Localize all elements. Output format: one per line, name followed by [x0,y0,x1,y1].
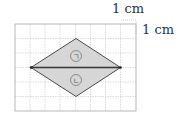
vertex-right [119,66,122,69]
vertex-left [30,66,33,69]
region-label-top: ㄱ [73,53,79,61]
rhombus-diagram: ㄱ ㄴ [0,0,189,118]
region-label-bottom: ㄴ [73,77,79,85]
scale-marker [121,20,136,35]
